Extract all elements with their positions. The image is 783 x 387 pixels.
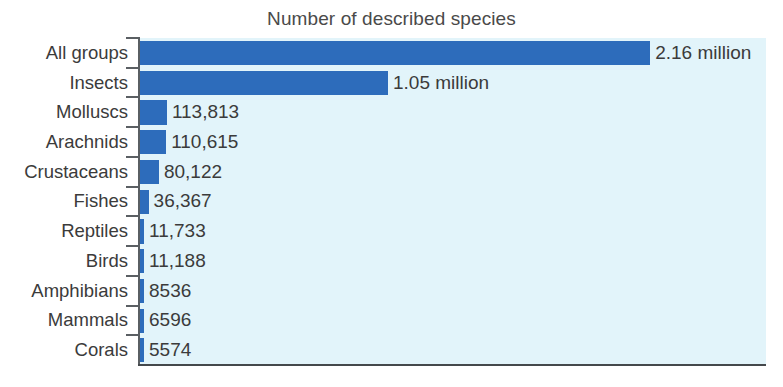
category-label: Amphibians	[0, 276, 128, 306]
bar-row: Reptiles11,733	[0, 216, 783, 246]
bar-row: Corals5574	[0, 335, 783, 365]
bar-value-label: 1.05 million	[388, 68, 489, 98]
bar-value-label: 36,367	[149, 187, 212, 217]
bar-row: All groups2.16 million	[0, 38, 783, 68]
chart-figure: Number of described species All groups2.…	[0, 0, 783, 387]
category-label: Crustaceans	[0, 157, 128, 187]
category-label: Reptiles	[0, 216, 128, 246]
category-label: Birds	[0, 246, 128, 276]
bar-value-label: 8536	[144, 276, 191, 306]
category-label: Insects	[0, 68, 128, 98]
bar-row: Crustaceans80,122	[0, 157, 783, 187]
bar-row: Fishes36,367	[0, 187, 783, 217]
category-label: Molluscs	[0, 97, 128, 127]
bar	[140, 41, 650, 65]
chart-title: Number of described species	[0, 8, 783, 30]
bar-value-label: 11,733	[144, 216, 206, 246]
category-label: Fishes	[0, 187, 128, 217]
bar-row: Birds11,188	[0, 246, 783, 276]
bar-row: Mammals6596	[0, 306, 783, 336]
bar	[140, 71, 388, 95]
bar	[140, 160, 159, 184]
bar-value-label: 80,122	[159, 157, 222, 187]
bar-row: Molluscs113,813	[0, 97, 783, 127]
bar	[140, 130, 166, 154]
bar-value-label: 11,188	[144, 246, 206, 276]
category-label: Mammals	[0, 306, 128, 336]
bar-value-label: 110,615	[166, 127, 238, 157]
bar-row: Amphibians8536	[0, 276, 783, 306]
bar-value-label: 5574	[144, 335, 191, 365]
bar	[140, 190, 149, 214]
bar	[140, 100, 167, 124]
bar-value-label: 6596	[144, 306, 191, 336]
bar-row: Insects1.05 million	[0, 68, 783, 98]
category-label: All groups	[0, 38, 128, 68]
bar-value-label: 2.16 million	[650, 38, 751, 68]
bar-row: Arachnids110,615	[0, 127, 783, 157]
bar-value-label: 113,813	[167, 97, 239, 127]
category-label: Arachnids	[0, 127, 128, 157]
category-label: Corals	[0, 335, 128, 365]
